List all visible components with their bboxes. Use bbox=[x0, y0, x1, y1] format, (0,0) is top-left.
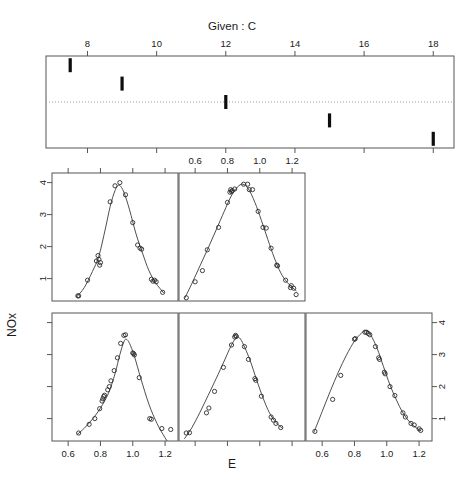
panel-x-tick-label: 0.8 bbox=[348, 448, 361, 459]
panel-x-tick-label: 1.2 bbox=[158, 448, 171, 459]
panel-x-tick-label: 1.0 bbox=[126, 448, 139, 459]
y-axis-title: NOx bbox=[5, 313, 19, 337]
panel-y-tick-label: 4 bbox=[436, 320, 447, 325]
given-tick-label: 8 bbox=[85, 38, 90, 49]
panel-x-tick-label: 0.8 bbox=[221, 155, 234, 166]
panel-y-tick-label: 1 bbox=[436, 416, 447, 421]
panel-y-tick-label: 2 bbox=[37, 244, 48, 249]
given-interval-bar bbox=[69, 58, 72, 72]
given-interval-bar bbox=[432, 132, 435, 146]
coplot-figure: Given : C 81012141618 0.60.81.01.20.60.8… bbox=[0, 0, 465, 493]
given-interval-bar bbox=[224, 95, 227, 109]
given-panel-title: Given : C bbox=[208, 20, 256, 32]
given-tick-label: 18 bbox=[428, 38, 439, 49]
given-interval-bar bbox=[328, 113, 331, 127]
given-tick-label: 16 bbox=[359, 38, 370, 49]
panel-x-tick-label: 0.6 bbox=[62, 448, 75, 459]
panel-x-tick-label: 1.0 bbox=[380, 448, 393, 459]
given-interval-bar bbox=[120, 77, 123, 91]
panel-x-tick-label: 0.6 bbox=[316, 448, 329, 459]
panel-x-tick-label: 0.8 bbox=[94, 448, 107, 459]
panel-y-tick-label: 1 bbox=[37, 276, 48, 281]
panel-x-tick-label: 0.6 bbox=[189, 155, 202, 166]
coplot-canvas: Given : C 81012141618 0.60.81.01.20.60.8… bbox=[0, 0, 465, 493]
panel-y-tick-label: 3 bbox=[436, 352, 447, 357]
panel-y-tick-label: 3 bbox=[37, 212, 48, 217]
figure-background bbox=[0, 0, 465, 493]
x-axis-title: E bbox=[228, 457, 236, 471]
given-tick-label: 10 bbox=[151, 38, 162, 49]
given-tick-label: 14 bbox=[290, 38, 301, 49]
panel-x-tick-label: 1.2 bbox=[285, 155, 298, 166]
given-tick-label: 12 bbox=[221, 38, 232, 49]
panel-y-tick-label: 4 bbox=[37, 180, 48, 185]
panel-x-tick-label: 1.2 bbox=[412, 448, 425, 459]
panel-y-tick-label: 2 bbox=[436, 384, 447, 389]
panel-x-tick-label: 1.0 bbox=[253, 155, 266, 166]
